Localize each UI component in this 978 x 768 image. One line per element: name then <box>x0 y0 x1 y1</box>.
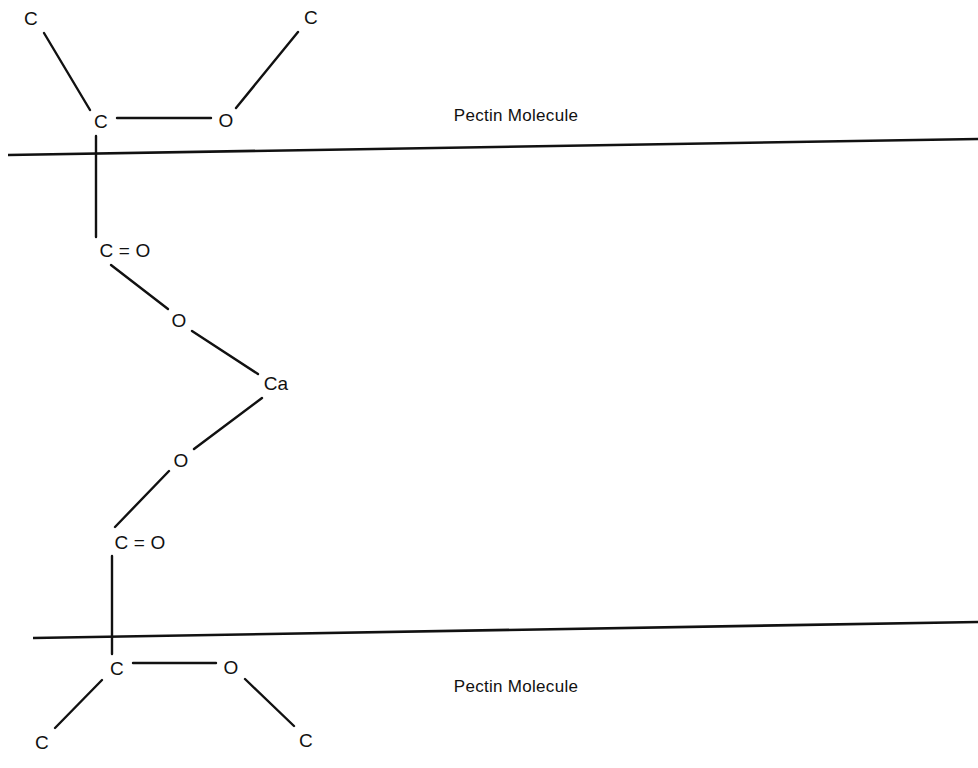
atom-label-o-upper-bridge: O <box>172 311 187 330</box>
atom-label-c-top-right: C <box>304 8 318 27</box>
pectin-backbone-lines <box>8 139 978 638</box>
atom-label-c-bottom-left: C <box>35 733 49 752</box>
covalent-bond-lines <box>44 32 298 728</box>
chemical-structure-diagram: CCCOC = OOCaOC = OCOCC Pectin MoleculePe… <box>0 0 978 768</box>
bond-c-topright-to-o <box>236 32 298 108</box>
atom-label-carbonyl-top: C = O <box>99 241 150 260</box>
atom-label-ca-center: Ca <box>264 374 289 393</box>
bond-o-bottomright-to-c <box>245 679 294 726</box>
atom-label-o-lower-bridge: O <box>174 451 189 470</box>
bond-c-bottomleft-to-c <box>55 680 102 728</box>
atom-label-c-top-ester: C <box>94 112 108 131</box>
atom-label-c-bottom-ester: C <box>110 659 124 678</box>
bond-ca-to-o-lower <box>194 398 262 449</box>
bond-o-lower-to-carbonyl <box>115 471 169 527</box>
atom-label-o-top-ester: O <box>219 111 234 130</box>
pectin-backbone-top-label: Pectin Molecule <box>454 107 579 124</box>
atom-label-c-bottom-right: C <box>299 731 313 750</box>
atom-label-o-bottom-ester: O <box>224 658 239 677</box>
atom-label-carbonyl-bottom: C = O <box>114 533 165 552</box>
atom-label-c-top-left: C <box>24 9 38 28</box>
bond-o-upper-to-ca <box>192 331 258 374</box>
bond-c-topleft-to-c <box>44 33 90 110</box>
pectin-backbone-bottom <box>33 622 978 638</box>
pectin-backbone-bottom-label: Pectin Molecule <box>454 678 579 695</box>
pectin-backbone-top <box>8 139 978 155</box>
bond-carbonyl-to-o-upper <box>111 265 168 309</box>
